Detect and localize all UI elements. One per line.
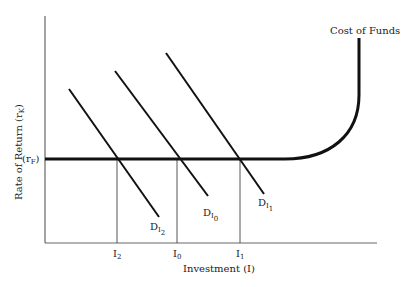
cost-of-funds-curve (45, 38, 359, 159)
investment-diagram: Cost of Funds (rF) Rate of Return (rK) D… (0, 0, 402, 287)
rf-label: (rF) (22, 153, 40, 166)
demand-label-i0: DI0 (203, 207, 218, 223)
x-tick-i1: I1 (236, 248, 244, 261)
x-axis-label: Investment (I) (183, 263, 255, 274)
demand-label-i1: DI1 (258, 197, 273, 213)
x-tick-i2: I2 (113, 248, 121, 261)
demand-line-i0 (115, 71, 208, 196)
x-tick-i0: I0 (173, 248, 181, 261)
cost-of-funds-label: Cost of Funds (330, 25, 400, 36)
demand-label-i2: DI2 (150, 221, 165, 237)
demand-line-i2 (69, 89, 159, 217)
demand-line-i1 (166, 53, 264, 194)
